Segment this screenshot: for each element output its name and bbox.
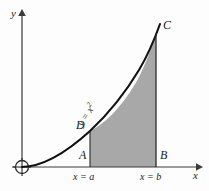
y-axis-arrowhead [18, 9, 26, 16]
tick-label-x-equals-a: x = a [73, 172, 94, 182]
point-label-c: C [163, 19, 171, 31]
tick-label-x-equals-b: x = b [140, 172, 161, 182]
y-axis-label: y [11, 8, 16, 19]
figure-canvas [0, 0, 209, 191]
x-axis-label: x [193, 170, 198, 181]
point-label-b: B [160, 149, 167, 161]
area-under-curve-figure: y x A B C D x = a x = b y = x2 [0, 0, 209, 191]
shaded-area-region [90, 34, 156, 167]
point-label-a: A [79, 149, 86, 161]
